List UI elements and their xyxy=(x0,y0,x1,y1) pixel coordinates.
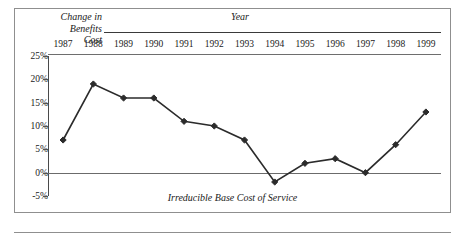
series-line xyxy=(63,84,426,182)
x-tick-1988: 1988 xyxy=(78,37,108,51)
data-point-1996 xyxy=(332,156,338,162)
data-point-1989 xyxy=(120,95,126,101)
x-axis-title-rule xyxy=(104,32,441,33)
x-axis-title: Year xyxy=(150,11,330,22)
x-tick-1998: 1998 xyxy=(381,37,411,51)
chart-figure: Change in Benefits Cost Year 19871988198… xyxy=(0,0,467,241)
x-tick-1991: 1991 xyxy=(169,37,199,51)
plot-area xyxy=(48,56,441,196)
x-tick-1997: 1997 xyxy=(350,37,380,51)
x-tick-1993: 1993 xyxy=(229,37,259,51)
x-tick-1996: 1996 xyxy=(320,37,350,51)
x-tick-1990: 1990 xyxy=(139,37,169,51)
x-tick-1989: 1989 xyxy=(108,37,138,51)
figure-bottom-rule xyxy=(14,232,451,233)
x-tick-1999: 1999 xyxy=(411,37,441,51)
series-plot xyxy=(48,56,441,196)
x-tick-1994: 1994 xyxy=(260,37,290,51)
x-axis-tick-labels: 1987198819891990199119921993199419951996… xyxy=(48,37,441,51)
x-tick-1987: 1987 xyxy=(48,37,78,51)
data-point-1988 xyxy=(90,81,96,87)
line-series-svg xyxy=(48,56,441,196)
x-tick-1992: 1992 xyxy=(199,37,229,51)
data-point-1987 xyxy=(60,137,66,143)
data-point-1992 xyxy=(211,123,217,129)
x-tick-1995: 1995 xyxy=(290,37,320,51)
chart-caption: Irreducible Base Cost of Service xyxy=(14,192,451,203)
x-axis-top-rule xyxy=(48,54,441,55)
